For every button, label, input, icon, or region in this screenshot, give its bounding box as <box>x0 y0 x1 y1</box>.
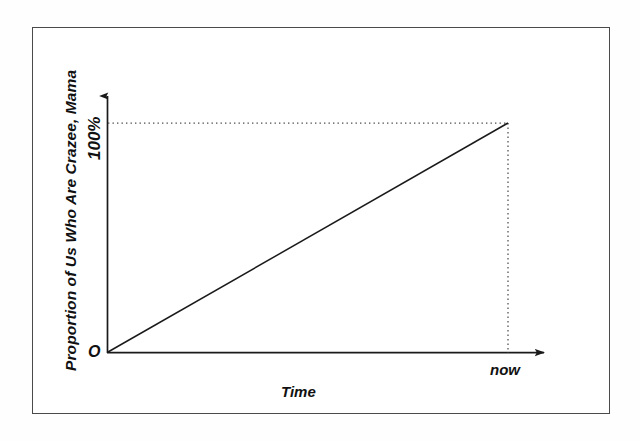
data-series-line <box>108 123 508 352</box>
chart-plot-area <box>0 0 640 441</box>
y-axis-title: Proportion of Us Who Are Crazee, Mama <box>63 70 79 371</box>
x-axis-title: Time <box>281 384 316 399</box>
y-axis-tick-label-100: 100% <box>86 117 103 160</box>
x-axis-tick-label-now: now <box>490 362 520 377</box>
scan-page: Proportion of Us Who Are Crazee, Mama 10… <box>0 0 640 441</box>
origin-label: O <box>88 344 100 360</box>
